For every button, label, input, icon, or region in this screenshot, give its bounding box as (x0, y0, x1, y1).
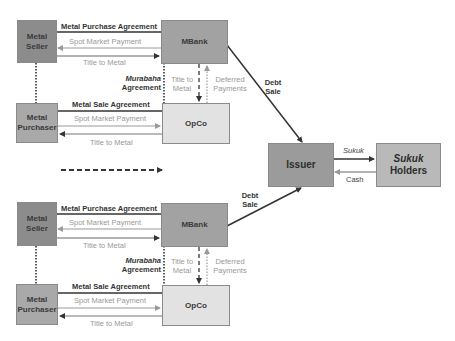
label: Deferred (210, 257, 250, 266)
label: Purchaser (17, 305, 56, 315)
label: Metal (168, 84, 196, 93)
title-to-metal-label-bottom-1: Title to Metal (83, 241, 126, 250)
murabaha-label-bottom: Murabaha Agreement (121, 256, 161, 274)
title-to-metal-vertical-label-bottom: Title to Metal (168, 257, 196, 275)
label: Purchaser (17, 123, 56, 133)
debt-sale-label-bottom: Debt Sale (239, 191, 261, 209)
spot-market-payment-label-top-2: Spot Market Payment (74, 114, 146, 123)
title-to-metal-label-bottom-2: Title to Metal (90, 319, 133, 328)
label: OpCo (185, 119, 207, 129)
spot-market-payment-label-bottom-2: Spot Market Payment (74, 296, 146, 305)
sukuk-flow-label: Sukuk (343, 146, 364, 155)
label: Sale (239, 200, 261, 209)
opco-box-top: OpCo (162, 103, 230, 144)
metal-sale-agreement-label-bottom: Metal Sale Agreement (72, 282, 150, 291)
metal-seller-box-top: Metal Seller (17, 20, 57, 63)
spot-market-payment-label-top-1: Spot Market Payment (69, 37, 141, 46)
label: Holders (390, 165, 427, 177)
label: Metal (168, 266, 196, 275)
metal-purchaser-box-top: Metal Purchaser (16, 103, 58, 143)
murabaha-label-top: Murabaha Agreement (121, 74, 161, 92)
label: Payments (210, 266, 250, 275)
label: Payments (210, 84, 250, 93)
label: Title to (168, 75, 196, 84)
label: Issuer (286, 160, 315, 170)
label: Murabaha (121, 256, 161, 265)
label: Agreement (121, 265, 161, 274)
label: Debt (239, 191, 261, 200)
label: OpCo (185, 301, 207, 311)
deferred-payments-label-bottom: Deferred Payments (210, 257, 250, 275)
label: Title to (168, 257, 196, 266)
label: Debt (262, 78, 284, 87)
issuer-box: Issuer (268, 143, 334, 187)
title-to-metal-label-top-1: Title to Metal (83, 58, 126, 67)
label: Murabaha (121, 74, 161, 83)
sukuk-holders-box: Sukuk Holders (376, 143, 441, 187)
opco-box-bottom: OpCo (162, 285, 230, 326)
mbank-box-top: MBank (161, 20, 228, 64)
cash-flow-label: Cash (346, 175, 364, 184)
label: Seller (26, 42, 48, 52)
label: Metal (17, 113, 56, 123)
deferred-payments-label-top: Deferred Payments (210, 75, 250, 93)
mbank-box-bottom: MBank (161, 203, 228, 247)
label: Agreement (121, 83, 161, 92)
metal-seller-box-bottom: Metal Seller (17, 202, 57, 246)
label: Deferred (210, 75, 250, 84)
metal-sale-agreement-label-top: Metal Sale Agreement (72, 100, 150, 109)
label: Metal (26, 32, 48, 42)
spot-market-payment-label-bottom-1: Spot Market Payment (69, 218, 141, 227)
metal-purchase-agreement-label-bottom: Metal Purchase Agreement (61, 204, 157, 213)
title-to-metal-label-top-2: Title to Metal (90, 138, 133, 147)
label: Metal (17, 295, 56, 305)
label: MBank (181, 37, 207, 47)
label: Metal (26, 214, 48, 224)
label: Seller (26, 224, 48, 234)
label: MBank (181, 220, 207, 230)
metal-purchase-agreement-label-top: Metal Purchase Agreement (61, 22, 157, 31)
label: Sale (262, 87, 284, 96)
metal-purchaser-box-bottom: Metal Purchaser (16, 284, 58, 325)
title-to-metal-vertical-label-top: Title to Metal (168, 75, 196, 93)
label: Sukuk (390, 153, 427, 165)
debt-sale-label-top: Debt Sale (262, 78, 284, 96)
